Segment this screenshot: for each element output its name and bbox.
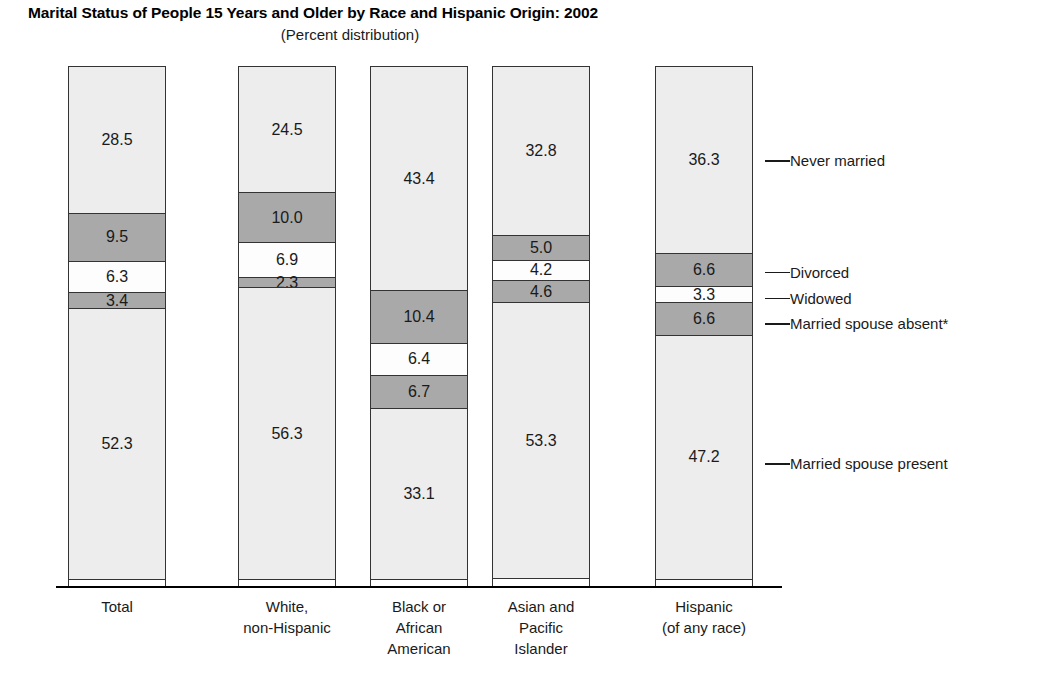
category-label: Hispanic(of any race): [629, 596, 779, 638]
legend-leader-line: [765, 160, 790, 162]
legend-leader-line: [765, 323, 790, 325]
category-label-line: Hispanic: [629, 596, 779, 617]
bar-segment: 47.2: [656, 335, 752, 580]
legend-leader-line: [765, 298, 790, 300]
category-label-line: Pacific: [466, 617, 616, 638]
bar-segment: 4.2: [493, 260, 589, 282]
legend-leader-line: [765, 272, 790, 274]
stacked-bar: 43.410.46.46.733.1: [370, 66, 468, 586]
segment-value-label: 10.4: [403, 309, 434, 325]
segment-value-label: 24.5: [271, 122, 302, 138]
segment-value-label: 28.5: [101, 132, 132, 148]
bar-segment: 10.4: [371, 290, 467, 344]
segment-value-label: 43.4: [403, 171, 434, 187]
bar-segment: 5.0: [493, 235, 589, 261]
bar-segment: 56.3: [239, 287, 335, 580]
segment-value-label: 47.2: [688, 449, 719, 465]
segment-value-label: 3.4: [106, 293, 128, 309]
category-label-line: non-Hispanic: [212, 617, 362, 638]
category-label-line: Islander: [466, 638, 616, 659]
category-label: Asian andPacificIslander: [466, 596, 616, 659]
legend-label: Divorced: [790, 263, 849, 280]
bar-segment: 9.5: [69, 213, 165, 262]
bar-segment: 53.3: [493, 302, 589, 579]
segment-value-label: 3.3: [693, 287, 715, 303]
segment-value-label: 10.0: [271, 210, 302, 226]
segment-value-label: 36.3: [688, 152, 719, 168]
segment-value-label: 32.8: [525, 143, 556, 159]
legend-leader-line: [765, 463, 790, 465]
bar-segment: 6.4: [371, 343, 467, 376]
bar-segment: 10.0: [239, 192, 335, 244]
chart-root: Marital Status of People 15 Years and Ol…: [0, 0, 1052, 698]
bar-segment: 6.6: [656, 302, 752, 336]
stacked-bar: 32.85.04.24.653.3: [492, 66, 590, 586]
legend-label: Widowed: [790, 289, 852, 306]
segment-value-label: 6.6: [693, 311, 715, 327]
category-label-line: White,: [212, 596, 362, 617]
segment-value-label: 6.7: [408, 384, 430, 400]
category-label-line: Total: [42, 596, 192, 617]
category-label: White,non-Hispanic: [212, 596, 362, 638]
segment-value-label: 56.3: [271, 426, 302, 442]
bar-segment: 3.3: [656, 286, 752, 303]
segment-value-label: 52.3: [101, 436, 132, 452]
bar-segment: 6.3: [69, 261, 165, 294]
legend-rail: [765, 66, 767, 586]
segment-value-label: 53.3: [525, 433, 556, 449]
legend-label: Married spouse present: [790, 455, 948, 472]
bar-segment: 36.3: [656, 66, 752, 255]
segment-value-label: 6.3: [106, 269, 128, 285]
x-axis-baseline: [56, 586, 782, 588]
stacked-bar: 24.510.06.92.356.3: [238, 66, 336, 586]
plot-area: 28.59.56.33.452.3Total24.510.06.92.356.3…: [0, 0, 1052, 698]
bar-segment: 28.5: [69, 66, 165, 214]
legend-label: Never married: [790, 152, 885, 169]
stacked-bar: 36.36.63.36.647.2: [655, 66, 753, 586]
category-label-line: Asian and: [466, 596, 616, 617]
segment-value-label: 33.1: [403, 486, 434, 502]
bar-segment: 24.5: [239, 66, 335, 193]
segment-value-label: 4.6: [530, 284, 552, 300]
bar-segment: 4.6: [493, 280, 589, 304]
segment-value-label: 4.2: [530, 262, 552, 278]
bar-segment: 43.4: [371, 66, 467, 292]
category-label-line: (of any race): [629, 617, 779, 638]
bar-segment: 3.4: [69, 292, 165, 310]
category-label: Total: [42, 596, 192, 617]
bar-segment: 52.3: [69, 308, 165, 580]
bar-segment: 32.8: [493, 66, 589, 237]
segment-value-label: 9.5: [106, 229, 128, 245]
stacked-bar: 28.59.56.33.452.3: [68, 66, 166, 586]
bar-segment: 6.9: [239, 242, 335, 278]
legend-label: Married spouse absent*: [790, 315, 948, 332]
bar-segment: 6.6: [656, 253, 752, 287]
segment-value-label: 5.0: [530, 240, 552, 256]
segment-value-label: 6.4: [408, 351, 430, 367]
segment-value-label: 6.6: [693, 262, 715, 278]
bar-segment: 6.7: [371, 375, 467, 410]
segment-value-label: 6.9: [276, 252, 298, 268]
bar-segment: 33.1: [371, 408, 467, 580]
